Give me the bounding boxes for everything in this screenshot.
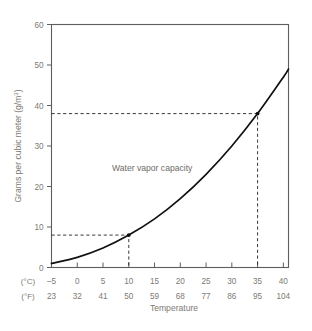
intersection-dot-guide-high (256, 112, 260, 116)
y-tick-label-40: 40 (34, 102, 44, 111)
y-axis-title: Grams per cubic meter (g/m3) (13, 89, 23, 202)
x-axis-title: Temperature (150, 303, 198, 313)
x-tick-label-c-5: 5 (101, 277, 106, 286)
x-tick-label-f-86: 86 (227, 292, 237, 301)
water-vapor-capacity-chart: 0102030405060–52303254110501559206825773… (0, 0, 312, 331)
y-tick-label-50: 50 (34, 61, 44, 70)
y-tick-label-0: 0 (39, 264, 44, 273)
y-tick-label-20: 20 (34, 183, 44, 192)
x-tick-label-f-77: 77 (202, 292, 212, 301)
x-tick-label-f-95: 95 (253, 292, 263, 301)
x-tick-label-f-104: 104 (277, 292, 291, 301)
x-tick-label-c-20: 20 (176, 277, 186, 286)
x-tick-label-f-68: 68 (176, 292, 186, 301)
x-tick-label-c-0: 0 (75, 277, 80, 286)
guide-line-guide-high (52, 114, 258, 268)
x-tick-label-f-59: 59 (150, 292, 160, 301)
x-axis-unit-fahrenheit: (°F) (21, 292, 35, 301)
y-tick-label-60: 60 (34, 21, 44, 30)
x-tick-label-c-40: 40 (279, 277, 289, 286)
x-tick-label-c-30: 30 (227, 277, 237, 286)
x-tick-label-c-15: 15 (150, 277, 160, 286)
x-tick-label-f-50: 50 (124, 292, 134, 301)
y-tick-label-30: 30 (34, 142, 44, 151)
x-tick-label-f-41: 41 (98, 292, 108, 301)
x-tick-label-c-25: 25 (202, 277, 212, 286)
curve-label: Water vapor capacity (112, 163, 193, 173)
plot-frame (52, 25, 289, 268)
x-tick-label-f-32: 32 (73, 292, 83, 301)
x-axis-unit-celsius: (°C) (21, 277, 36, 286)
guide-line-guide-low (52, 235, 129, 267)
x-tick-label-c--5: –5 (47, 277, 57, 286)
x-tick-label-c-35: 35 (253, 277, 263, 286)
chart-canvas: 0102030405060–52303254110501559206825773… (0, 0, 312, 331)
x-tick-label-f-23: 23 (47, 292, 57, 301)
x-tick-label-c-10: 10 (124, 277, 134, 286)
intersection-dot-guide-low (127, 233, 131, 237)
y-tick-label-10: 10 (34, 223, 44, 232)
